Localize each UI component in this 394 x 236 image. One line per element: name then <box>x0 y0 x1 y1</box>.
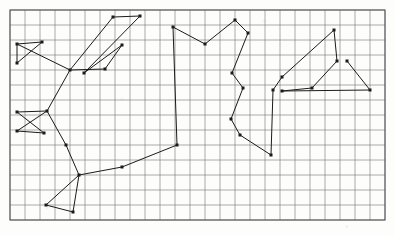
vertex-marker-v29 <box>272 89 275 92</box>
vertex-marker-v13 <box>16 111 19 114</box>
polyline-plot <box>0 0 394 236</box>
vertex-marker-v30 <box>281 76 284 79</box>
vertex-marker-v10 <box>46 110 49 113</box>
vertex-marker-v24 <box>231 72 234 75</box>
vertex-marker-v31 <box>333 29 336 32</box>
vertex-marker-v6 <box>139 15 142 18</box>
vertex-marker-v18 <box>121 166 124 169</box>
vertex-marker-v34 <box>281 90 284 93</box>
polyline-path <box>17 16 140 133</box>
vertex-marker-v4 <box>69 69 72 72</box>
vertex-marker-v32 <box>336 60 339 63</box>
vertex-marker-v36 <box>346 60 349 63</box>
vertex-marker-v27 <box>239 134 242 137</box>
vertex-marker-v11 <box>16 130 19 133</box>
vertex-marker-v19 <box>176 144 179 147</box>
vertex-marker-v8 <box>121 44 124 47</box>
vertex-marker-v26 <box>230 118 233 121</box>
vertex-marker-v2 <box>41 41 44 44</box>
vertex-marker-v1 <box>16 43 19 46</box>
polyline-path-continued <box>46 20 370 212</box>
vertex-marker-v9 <box>104 68 107 71</box>
vertex-marker-v23 <box>247 32 250 35</box>
vertex-marker-v16 <box>45 204 48 207</box>
vertex-marker-v28 <box>270 154 273 157</box>
vertex-marker-v3 <box>16 62 19 65</box>
vertex-marker-v12 <box>43 132 46 135</box>
diagram-canvas <box>0 0 394 236</box>
vertex-marker-v17 <box>72 211 75 214</box>
vertex-marker-v14 <box>65 144 68 147</box>
vertex-marker-v21 <box>204 43 207 46</box>
vertex-marker-v25 <box>242 87 245 90</box>
vertex-marker-v15 <box>78 174 81 177</box>
vertex-marker-v35 <box>369 89 372 92</box>
vertex-marker-v33 <box>311 87 314 90</box>
vertex-marker-v7 <box>83 72 86 75</box>
vertex-marker-v22 <box>234 19 237 22</box>
grid-layer <box>10 10 385 220</box>
vertex-marker-v5 <box>112 16 115 19</box>
vertex-marker-v20 <box>172 26 175 29</box>
